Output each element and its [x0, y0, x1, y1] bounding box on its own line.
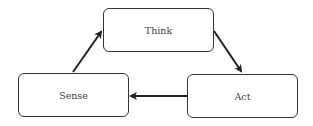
node-act: Act: [187, 74, 298, 118]
node-think: Think: [103, 8, 214, 52]
node-sense: Sense: [18, 73, 129, 117]
arrow-think-to-act: [214, 31, 241, 71]
node-sense-label: Sense: [59, 90, 88, 101]
node-think-label: Think: [145, 25, 172, 36]
node-act-label: Act: [235, 91, 251, 102]
sense-think-act-diagram: Think Act Sense: [0, 0, 313, 126]
arrow-sense-to-think: [73, 32, 101, 72]
